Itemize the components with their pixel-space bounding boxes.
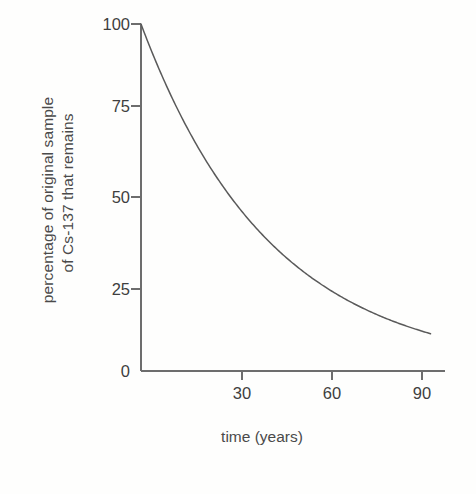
decay-curve (141, 24, 431, 334)
chart-figure: percentage of original sample of Cs-137 … (0, 0, 476, 494)
y-axis-ticks (131, 24, 141, 289)
plot-area (0, 0, 476, 494)
x-axis-ticks (242, 371, 422, 380)
